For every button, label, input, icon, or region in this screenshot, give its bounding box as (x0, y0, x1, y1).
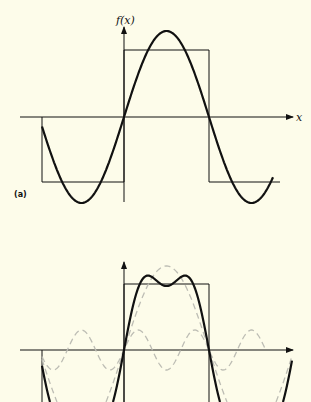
fourier-figure: f(x) x (a) (0, 0, 311, 402)
panel-a: f(x) x (a) (14, 14, 303, 203)
panel-a-tag: (a) (14, 190, 27, 199)
y-axis-label: f(x) (115, 14, 135, 27)
x-axis-label: x (296, 111, 303, 124)
panel-b (20, 262, 293, 402)
partial-sum-curve (42, 276, 292, 402)
square-wave (42, 50, 280, 182)
